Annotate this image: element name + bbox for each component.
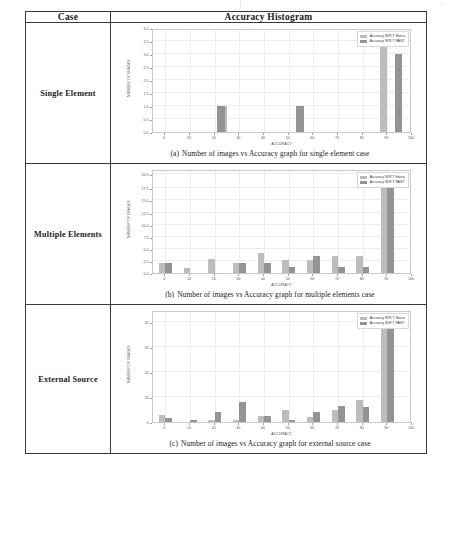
x-axis-tick-label: 60 — [310, 426, 314, 430]
gridline-vertical — [239, 171, 240, 273]
x-axis-tick-label: 40 — [261, 426, 265, 430]
y-axis-tick-mark — [150, 214, 152, 215]
legend-label: Accuracy W.R.T FAST — [370, 321, 405, 326]
legend-swatch-icon — [360, 181, 367, 184]
histogram-bar — [239, 402, 246, 422]
x-axis-tick-label: 80 — [360, 136, 364, 140]
gridline-horizontal — [153, 346, 410, 347]
legend-swatch-icon — [360, 35, 367, 38]
x-axis-tick-label: 10 — [187, 277, 191, 281]
legend-swatch-icon — [360, 322, 367, 325]
gridline-horizontal — [153, 248, 410, 249]
histogram-bar — [264, 416, 271, 422]
histogram-bar — [165, 418, 172, 422]
y-axis-tick-label: 20 — [145, 371, 149, 375]
x-axis-tick-label: 90 — [384, 136, 388, 140]
figure-cell: 0102030400102030405060708090100NUMBER OF… — [111, 305, 427, 454]
y-axis-label: NUMBER OF IMAGES — [127, 345, 131, 383]
histogram-bar — [217, 106, 225, 132]
legend-swatch-icon — [360, 317, 367, 320]
x-axis-tick-label: 10 — [187, 426, 191, 430]
x-axis-tick-label: 0 — [163, 426, 165, 430]
figure-caption-text: Number of images vs Accuracy graph for e… — [181, 439, 371, 448]
y-axis-tick-mark — [150, 55, 152, 56]
x-axis-tick-label: 20 — [212, 136, 216, 140]
y-axis-tick-mark — [150, 81, 152, 82]
x-axis-tick-mark — [411, 423, 412, 425]
figure-caption-label: (a) — [171, 149, 180, 158]
legend-swatch-icon — [360, 176, 367, 179]
legend-label: Accuracy W.R.T FAST — [370, 39, 405, 44]
x-axis-tick-label: 60 — [310, 136, 314, 140]
y-axis-tick-mark — [150, 373, 152, 374]
figure-caption-text: Number of images vs Accuracy graph for m… — [177, 290, 375, 299]
histogram-bar — [395, 54, 403, 132]
y-axis-tick-label: 4.0 — [144, 27, 149, 31]
y-axis-tick-label: 10 — [145, 396, 149, 400]
histogram-bar — [208, 259, 215, 274]
histogram-bar — [313, 256, 320, 273]
gridline-horizontal — [153, 79, 410, 80]
x-axis-tick-mark — [337, 423, 338, 425]
x-axis-tick-label: 40 — [261, 136, 265, 140]
histogram-bar — [289, 420, 296, 422]
y-axis-tick-mark — [150, 107, 152, 108]
x-axis-tick-label: 30 — [236, 277, 240, 281]
x-axis-tick-label: 40 — [261, 277, 265, 281]
y-axis-tick-mark — [150, 348, 152, 349]
y-axis-tick-mark — [150, 29, 152, 30]
figure-caption-text: Number of images vs Accuracy graph for s… — [182, 149, 369, 158]
gridline-horizontal — [153, 53, 410, 54]
case-label-cell: External Source — [26, 305, 111, 454]
gridline-vertical — [165, 312, 166, 422]
histogram-bar — [387, 320, 394, 422]
y-axis-tick-label: 3.5 — [144, 40, 149, 44]
x-axis-tick-mark — [386, 423, 387, 425]
histogram-bar — [215, 412, 222, 422]
figure-container: 0.02.55.07.510.012.515.017.520.501020304… — [111, 164, 429, 304]
x-axis-tick-mark — [214, 423, 215, 425]
gridline-horizontal — [153, 118, 410, 119]
x-axis-tick-mark — [312, 133, 313, 135]
figure-caption-label: (b) — [165, 290, 174, 299]
x-axis-tick-label: 50 — [286, 136, 290, 140]
figure-caption-label: (c) — [169, 439, 178, 448]
y-axis-tick-label: 2.5 — [144, 260, 149, 264]
gridline-vertical — [215, 30, 216, 132]
legend-swatch-icon — [360, 40, 367, 43]
histogram-bar — [296, 106, 304, 132]
gridline-vertical — [289, 30, 290, 132]
scan-artifact-top-right — [441, 3, 444, 4]
y-axis-tick-mark — [150, 201, 152, 202]
histogram-bar — [313, 412, 320, 422]
gridline-vertical — [165, 171, 166, 273]
histogram-bar — [363, 407, 370, 422]
x-axis-tick-label: 100 — [408, 277, 414, 281]
figure-container: 0.00.51.01.52.02.53.03.54.00102030405060… — [111, 23, 429, 163]
gridline-vertical — [239, 30, 240, 132]
x-axis-tick-mark — [288, 133, 289, 135]
x-axis-tick-label: 10 — [187, 136, 191, 140]
x-axis-tick-label: 70 — [335, 136, 339, 140]
x-axis-tick-label: 100 — [408, 136, 414, 140]
figure-container: 0102030400102030405060708090100NUMBER OF… — [111, 305, 429, 453]
gridline-vertical — [289, 171, 290, 273]
histogram-bar — [184, 268, 191, 273]
x-axis-tick-mark — [189, 274, 190, 276]
gridline-vertical — [190, 312, 191, 422]
y-axis-tick-mark — [150, 226, 152, 227]
y-axis-tick-mark — [150, 274, 152, 275]
x-axis-tick-mark — [238, 133, 239, 135]
histogram-bar — [338, 406, 345, 422]
y-axis-tick-label: 10.0 — [142, 224, 149, 228]
x-axis-tick-label: 20 — [212, 277, 216, 281]
gridline-horizontal — [153, 92, 410, 93]
x-axis-tick-label: 60 — [310, 277, 314, 281]
x-axis-tick-mark — [288, 423, 289, 425]
y-axis-tick-label: 0.0 — [144, 272, 149, 276]
gridline-vertical — [190, 30, 191, 132]
x-axis-tick-mark — [411, 274, 412, 276]
x-axis-tick-mark — [337, 274, 338, 276]
document-page: Case Accuracy Histogram Single Element0.… — [0, 0, 452, 536]
x-axis-tick-label: 80 — [360, 426, 364, 430]
